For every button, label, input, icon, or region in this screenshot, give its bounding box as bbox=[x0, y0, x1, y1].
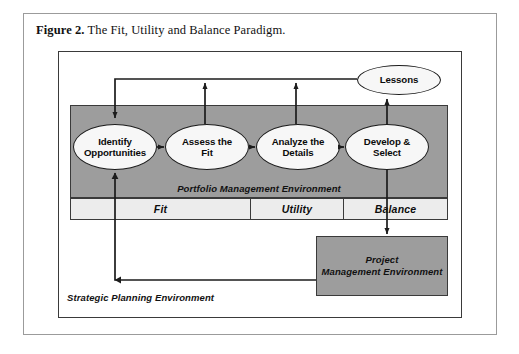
project-management-environment-box: ProjectManagement Environment bbox=[316, 236, 448, 296]
analyze-line1: Analyze the bbox=[272, 136, 325, 147]
develop-line1: Develop & bbox=[364, 136, 410, 147]
phase-band-fit: Fit bbox=[70, 198, 251, 220]
analyze-line2: Details bbox=[282, 147, 313, 158]
phase-band-utility: Utility bbox=[250, 198, 344, 220]
process-node-develop-and-select: Develop &Select bbox=[345, 124, 429, 170]
strategic-planning-environment-label: Strategic Planning Environment bbox=[67, 292, 214, 303]
assess-line1: Assess the bbox=[182, 136, 232, 147]
assess-line2: Fit bbox=[201, 147, 213, 158]
process-node-assess-the-fit-label: Assess theFit bbox=[182, 136, 232, 158]
figure-caption-label: Figure 2. bbox=[36, 23, 85, 37]
figure-caption: Figure 2. The Fit, Utility and Balance P… bbox=[36, 23, 285, 38]
process-node-identify-opportunities: IdentifyOpportunities bbox=[73, 124, 157, 170]
figure-page: Figure 2. The Fit, Utility and Balance P… bbox=[0, 0, 519, 354]
feedback-node-lessons-label: Lessons bbox=[380, 74, 419, 85]
phase-band-balance: Balance bbox=[343, 198, 448, 220]
develop-line2: Select bbox=[373, 147, 401, 158]
portfolio-management-environment-label: Portfolio Management Environment bbox=[71, 183, 447, 194]
project-management-environment-label: ProjectManagement Environment bbox=[322, 254, 443, 278]
identify-line1: Identify bbox=[98, 136, 132, 147]
process-node-analyze-the-details-label: Analyze theDetails bbox=[272, 136, 325, 158]
phase-band-utility-label: Utility bbox=[282, 203, 313, 215]
phase-band-fit-label: Fit bbox=[154, 203, 167, 215]
project-label-line2: Management Environment bbox=[322, 266, 443, 277]
figure-caption-text: The Fit, Utility and Balance Paradigm. bbox=[85, 23, 286, 37]
process-node-assess-the-fit: Assess theFit bbox=[165, 124, 249, 170]
feedback-node-lessons: Lessons bbox=[357, 65, 441, 95]
project-label-line1: Project bbox=[366, 254, 399, 265]
process-node-identify-opportunities-label: IdentifyOpportunities bbox=[84, 136, 146, 158]
process-node-develop-and-select-label: Develop &Select bbox=[364, 136, 410, 158]
process-node-analyze-the-details: Analyze theDetails bbox=[256, 124, 340, 170]
identify-line2: Opportunities bbox=[84, 147, 146, 158]
phase-band-balance-label: Balance bbox=[375, 203, 417, 215]
